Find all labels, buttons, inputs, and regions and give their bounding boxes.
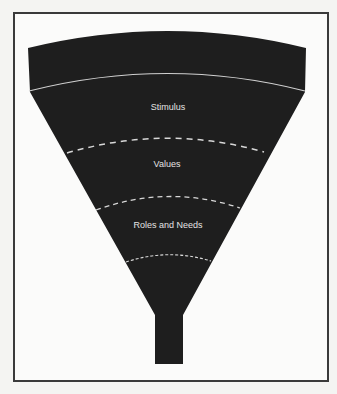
funnel-diagram: Stimulus Values Roles and Needs [0, 0, 337, 394]
stage-label-values: Values [154, 159, 181, 169]
stage-label-stimulus: Stimulus [151, 102, 186, 112]
funnel-shape [28, 31, 306, 364]
stage-label-roles-and-needs: Roles and Needs [133, 220, 203, 230]
